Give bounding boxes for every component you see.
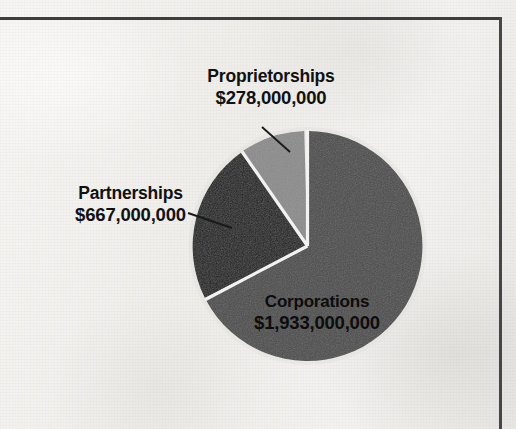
pie-label-partnerships-name: Partnerships bbox=[38, 183, 223, 204]
figure-page: Proprietorships $278,000,000 Partnership… bbox=[0, 0, 516, 429]
pie-label-corporations: Corporations $1,933,000,000 bbox=[231, 292, 403, 334]
pie-label-proprietorships-value: $278,000,000 bbox=[176, 87, 366, 109]
pie-chart: Proprietorships $278,000,000 Partnership… bbox=[0, 0, 516, 429]
pie-label-partnerships-value: $667,000,000 bbox=[38, 204, 223, 226]
pie-label-proprietorships: Proprietorships $278,000,000 bbox=[176, 66, 366, 108]
pie-label-corporations-value: $1,933,000,000 bbox=[231, 312, 403, 334]
pie-label-corporations-name: Corporations bbox=[231, 292, 403, 312]
pie-label-partnerships: Partnerships $667,000,000 bbox=[38, 183, 223, 225]
pie-label-proprietorships-name: Proprietorships bbox=[176, 66, 366, 87]
